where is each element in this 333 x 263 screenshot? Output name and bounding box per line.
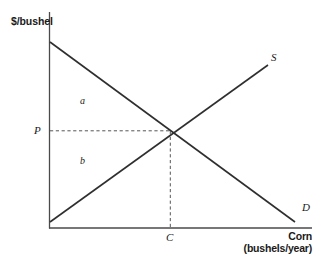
supply-curve [50, 65, 268, 222]
x-axis-label-line1: Corn [233, 231, 312, 243]
equilibrium-quantity-label: C [166, 231, 173, 243]
supply-curve-label: S [271, 51, 277, 63]
supply-demand-chart: $/bushel Corn (bushels/year) S D P C a b [0, 0, 333, 263]
area-label-a: a [80, 95, 85, 106]
chart-drawing-surface [0, 0, 333, 263]
y-axis-label: $/bushel [11, 16, 53, 28]
equilibrium-price-label: P [34, 124, 41, 136]
area-label-b: b [80, 155, 85, 166]
x-axis-label-line2: (bushels/year) [218, 243, 312, 255]
demand-curve-label: D [302, 201, 310, 213]
